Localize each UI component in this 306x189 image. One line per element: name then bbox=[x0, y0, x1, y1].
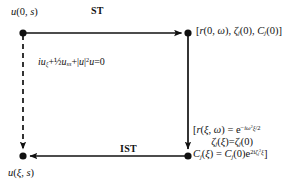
top-right-close-bracket: ] bbox=[278, 25, 282, 36]
br1-exp-over-two: /2 bbox=[256, 124, 261, 131]
nls-equals-zero: =0 bbox=[94, 56, 105, 67]
edge-label-st: ST bbox=[91, 5, 104, 17]
nls-plus2-bar: +| bbox=[71, 56, 79, 67]
nls-one-half: ½ bbox=[54, 56, 62, 67]
top-right-omega: ω bbox=[218, 25, 225, 36]
node-top-right-dot bbox=[184, 29, 191, 36]
commutative-diagram-figure: u(0, s) ST [r(0, ω), ζj(0), Cj(0)] iuξ+½… bbox=[0, 0, 306, 189]
br2-zero: (0) bbox=[241, 136, 253, 147]
node-label-top-left-close: ) bbox=[34, 6, 38, 17]
top-right-r-args-close: ), bbox=[225, 25, 234, 36]
edge-label-nls-equation: iuξ+½uss+|u|2u=0 bbox=[38, 56, 105, 68]
bottom-right-line-3: Cj(ξ) = Cj(0)e2iζj2ξ] bbox=[193, 148, 267, 160]
top-right-C-args: (0) bbox=[266, 25, 278, 36]
node-bottom-right-dot bbox=[184, 152, 191, 159]
bottom-left-close: ) bbox=[31, 167, 35, 178]
bottom-right-line-1: [r(ξ, ω) = e−iω2ξ/2 bbox=[193, 124, 267, 136]
node-bottom-left-dot bbox=[19, 152, 26, 159]
edge-label-ist: IST bbox=[120, 143, 137, 155]
br3-zero: (0) bbox=[233, 148, 245, 159]
br3-close-equals: ) = bbox=[210, 148, 225, 159]
node-label-top-left: u(0, s) bbox=[11, 6, 38, 18]
br2-close-equals: )= bbox=[225, 136, 234, 147]
br3-close-bracket: ] bbox=[264, 148, 268, 159]
node-top-left-dot bbox=[19, 29, 26, 36]
br1-close-paren-equals: ) = bbox=[221, 124, 236, 135]
node-label-bottom-left: u(ξ, s) bbox=[8, 167, 34, 179]
br1-exponent: −iω2ξ/2 bbox=[241, 124, 261, 131]
br3-C1: C bbox=[193, 148, 200, 159]
node-label-bottom-right: [r(ξ, ω) = e−iω2ξ/2 ζj(ξ)=ζj(0) Cj(ξ) = … bbox=[193, 124, 267, 160]
br3-C2: C bbox=[225, 148, 232, 159]
top-right-r-args-open: (0, bbox=[204, 25, 218, 36]
node-label-top-right: [r(0, ω), ζj(0), Cj(0)] bbox=[196, 25, 282, 37]
node-label-top-left-args: (0, bbox=[16, 6, 30, 17]
br3-exponent: 2iζj2ξ bbox=[250, 148, 264, 155]
top-right-zeta-args: (0), bbox=[240, 25, 258, 36]
bottom-right-line-2: ζj(ξ)=ζj(0) bbox=[193, 136, 267, 148]
